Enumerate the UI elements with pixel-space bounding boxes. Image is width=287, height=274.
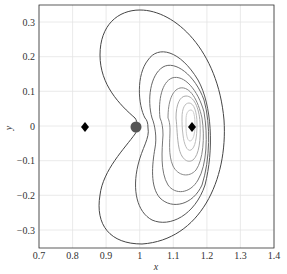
y-tick-label: 0.1 bbox=[23, 86, 36, 97]
y-tick-label: −0.2 bbox=[17, 190, 35, 201]
markers bbox=[81, 122, 196, 133]
contour-plot: 0.70.80.911.11.21.31.4 0.30.20.10−0.1−0.… bbox=[0, 0, 287, 274]
x-tick-label: 1.4 bbox=[268, 250, 281, 261]
y-axis-label: y bbox=[3, 125, 14, 131]
y-tick-label: −0.3 bbox=[17, 225, 35, 236]
x-axis-label: x bbox=[153, 261, 159, 272]
y-tick-label: 0.2 bbox=[23, 51, 36, 62]
circle-marker bbox=[131, 122, 142, 133]
diamond-marker-left bbox=[81, 122, 89, 132]
contour-lines bbox=[99, 10, 224, 244]
y-tick-label: 0 bbox=[30, 121, 35, 132]
y-tick-label: −0.1 bbox=[17, 155, 35, 166]
x-tick-labels: 0.70.80.911.11.21.31.4 bbox=[33, 250, 281, 261]
x-tick-label: 1.1 bbox=[167, 250, 180, 261]
x-tick-label: 0.9 bbox=[100, 250, 113, 261]
x-tick-label: 0.7 bbox=[33, 250, 46, 261]
y-tick-labels: 0.30.20.10−0.1−0.2−0.3 bbox=[17, 17, 35, 236]
x-tick-label: 1 bbox=[137, 250, 142, 261]
axes-frame bbox=[39, 5, 274, 248]
x-tick-label: 1.3 bbox=[234, 250, 247, 261]
x-tick-label: 0.8 bbox=[66, 250, 79, 261]
x-tick-label: 1.2 bbox=[201, 250, 214, 261]
grid-lines bbox=[39, 5, 274, 248]
y-tick-label: 0.3 bbox=[23, 17, 36, 28]
